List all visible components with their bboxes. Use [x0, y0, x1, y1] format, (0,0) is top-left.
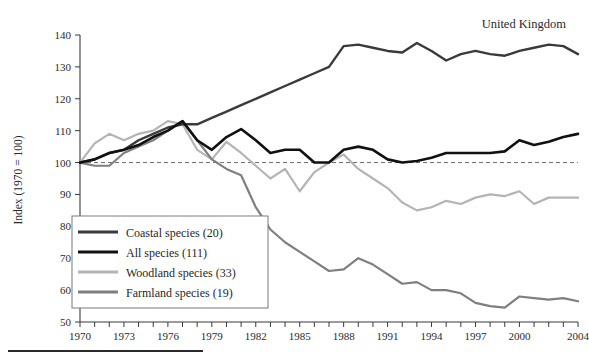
y-tick-label-110: 110 [55, 125, 72, 137]
x-tick-label-2004: 2004 [567, 330, 589, 342]
chart-legend: Coastal species (20)All species (111)Woo… [72, 216, 268, 308]
chart-figure: 5060708090100110120130140 19701973197619… [0, 0, 589, 358]
x-tick-label-group: 1970197319761979198219851988199119941997… [69, 330, 589, 342]
x-tick-label-1982: 1982 [245, 330, 267, 342]
x-tick-group [80, 322, 578, 327]
legend-label-1: All species (111) [126, 246, 207, 260]
legend-label-3: Farmland species (19) [126, 286, 233, 300]
legend-label-0: Coastal species (20) [126, 226, 223, 240]
legend-label-2: Woodland species (33) [126, 266, 236, 280]
series-line-coastal-species-20 [80, 43, 578, 163]
y-tick-label-60: 60 [60, 284, 72, 296]
x-tick-label-1997: 1997 [464, 330, 487, 342]
region-label: United Kingdom [482, 17, 567, 31]
y-tick-label-120: 120 [55, 93, 72, 105]
y-tick-label-group: 5060708090100110120130140 [55, 29, 72, 328]
y-tick-label-70: 70 [60, 252, 72, 264]
y-tick-label-80: 80 [60, 220, 72, 232]
y-tick-label-100: 100 [55, 157, 72, 169]
footer-rule [8, 350, 203, 352]
series-line-all-species-111 [80, 121, 578, 162]
x-tick-label-1973: 1973 [113, 330, 136, 342]
x-tick-label-1988: 1988 [333, 330, 356, 342]
x-tick-label-1994: 1994 [421, 330, 444, 342]
x-tick-label-1979: 1979 [201, 330, 224, 342]
y-tick-label-50: 50 [60, 316, 72, 328]
line-chart: 5060708090100110120130140 19701973197619… [0, 0, 589, 358]
y-tick-label-90: 90 [60, 188, 72, 200]
x-tick-label-1991: 1991 [377, 330, 399, 342]
y-tick-label-140: 140 [55, 29, 72, 41]
x-tick-label-2000: 2000 [508, 330, 531, 342]
x-tick-label-1976: 1976 [157, 330, 180, 342]
x-tick-label-1985: 1985 [289, 330, 312, 342]
y-tick-label-130: 130 [55, 61, 72, 73]
x-tick-label-1970: 1970 [69, 330, 92, 342]
y-axis-title: Index (1970 = 100) [12, 135, 25, 224]
